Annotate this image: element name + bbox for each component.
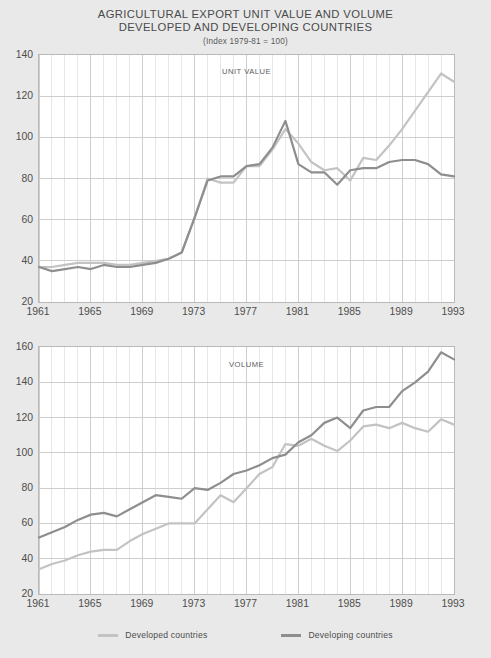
x-tick-unit-value-1969: 1969 bbox=[130, 306, 153, 317]
y-tick-volume-40: 40 bbox=[21, 552, 33, 563]
legend-item-developing: Developing countries bbox=[281, 630, 392, 640]
x-tick-volume-1965: 1965 bbox=[78, 598, 101, 609]
x-axis-labels-unit-value: 196119651969197319771981198519891993 bbox=[38, 306, 455, 322]
x-tick-unit-value-1977: 1977 bbox=[234, 306, 257, 317]
chart-legend: Developed countries Developing countries bbox=[0, 630, 491, 640]
y-axis-labels-unit-value: 20406080100120140 bbox=[0, 54, 33, 303]
x-tick-volume-1977: 1977 bbox=[234, 598, 257, 609]
plot-area-unit-value: UNIT VALUE bbox=[38, 54, 455, 303]
x-tick-volume-1961: 1961 bbox=[26, 598, 49, 609]
data-lines-unit-value bbox=[39, 55, 454, 302]
title-line-2: DEVELOPED AND DEVELOPING COUNTRIES bbox=[0, 21, 491, 34]
x-tick-unit-value-1993: 1993 bbox=[441, 306, 464, 317]
y-tick-volume-20: 20 bbox=[21, 588, 33, 599]
y-axis-labels-volume: 20406080100120140160 bbox=[0, 346, 33, 595]
x-tick-unit-value-1973: 1973 bbox=[182, 306, 205, 317]
y-tick-unit-value-40: 40 bbox=[21, 254, 33, 265]
y-tick-volume-80: 80 bbox=[21, 482, 33, 493]
x-tick-volume-1969: 1969 bbox=[130, 598, 153, 609]
y-tick-unit-value-100: 100 bbox=[16, 131, 33, 142]
x-tick-volume-1981: 1981 bbox=[286, 598, 309, 609]
x-tick-unit-value-1985: 1985 bbox=[338, 306, 361, 317]
y-tick-volume-100: 100 bbox=[16, 446, 33, 457]
y-tick-unit-value-20: 20 bbox=[21, 296, 33, 307]
y-tick-unit-value-120: 120 bbox=[16, 90, 33, 101]
panel-label-volume: VOLUME bbox=[229, 360, 264, 369]
y-tick-volume-140: 140 bbox=[16, 376, 33, 387]
legend-item-developed: Developed countries bbox=[98, 630, 207, 640]
x-tick-volume-1973: 1973 bbox=[182, 598, 205, 609]
legend-label-developed: Developed countries bbox=[125, 630, 207, 640]
y-tick-volume-120: 120 bbox=[16, 411, 33, 422]
y-tick-unit-value-80: 80 bbox=[21, 172, 33, 183]
chart-subtitle: (Index 1979-81 = 100) bbox=[0, 37, 491, 46]
x-tick-volume-1993: 1993 bbox=[441, 598, 464, 609]
plot-area-volume: VOLUME bbox=[38, 346, 455, 595]
x-tick-volume-1989: 1989 bbox=[390, 598, 413, 609]
legend-swatch-developed bbox=[98, 634, 118, 637]
y-tick-volume-60: 60 bbox=[21, 517, 33, 528]
panel-label-unit-value: UNIT VALUE bbox=[222, 67, 271, 76]
page-background: AGRICULTURAL EXPORT UNIT VALUE AND VOLUM… bbox=[0, 0, 491, 658]
title-line-1: AGRICULTURAL EXPORT UNIT VALUE AND VOLUM… bbox=[0, 8, 491, 21]
legend-swatch-developing bbox=[281, 634, 301, 637]
x-tick-unit-value-1989: 1989 bbox=[390, 306, 413, 317]
x-tick-unit-value-1965: 1965 bbox=[78, 306, 101, 317]
legend-label-developing: Developing countries bbox=[308, 630, 392, 640]
y-tick-unit-value-60: 60 bbox=[21, 213, 33, 224]
x-tick-volume-1985: 1985 bbox=[338, 598, 361, 609]
x-tick-unit-value-1981: 1981 bbox=[286, 306, 309, 317]
chart-unit-value: 20406080100120140 UNIT VALUE 19611965196… bbox=[0, 48, 491, 326]
x-tick-unit-value-1961: 1961 bbox=[26, 306, 49, 317]
chart-volume: 20406080100120140160 VOLUME 196119651969… bbox=[0, 340, 491, 622]
y-tick-unit-value-140: 140 bbox=[16, 49, 33, 60]
chart-title-block: AGRICULTURAL EXPORT UNIT VALUE AND VOLUM… bbox=[0, 8, 491, 46]
x-axis-labels-volume: 196119651969197319771981198519891993 bbox=[38, 598, 455, 614]
data-lines-volume bbox=[39, 347, 454, 594]
y-tick-volume-160: 160 bbox=[16, 341, 33, 352]
